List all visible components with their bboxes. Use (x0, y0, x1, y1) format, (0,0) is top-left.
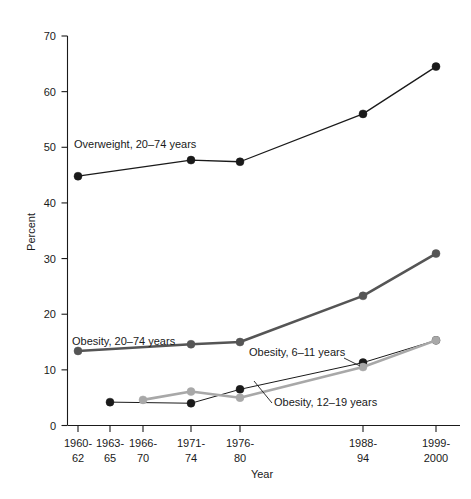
y-tick-label: 10 (44, 364, 56, 376)
data-point (359, 363, 367, 371)
y-tick-label: 0 (50, 420, 56, 432)
data-point (187, 388, 195, 396)
x-tick-label: 1976- (226, 437, 254, 449)
x-axis-ticks: 1960-621963-651966-701971-741976-801988-… (64, 426, 450, 465)
series-annotation-2: Obesity, 6–11 years (249, 346, 346, 358)
y-tick-label: 50 (44, 141, 56, 153)
series-annotation-0: Overweight, 20–74 years (74, 138, 197, 150)
x-tick-label: 2000 (424, 452, 448, 464)
y-tick-label: 20 (44, 308, 56, 320)
series-0 (74, 63, 440, 181)
x-tick-label: 1966- (129, 437, 157, 449)
data-point (187, 340, 195, 348)
x-tick-label: 65 (104, 452, 116, 464)
series-annotations: Overweight, 20–74 yearsObesity, 20–74 ye… (72, 138, 378, 408)
y-axis-ticks: 010203040506070 (44, 30, 68, 432)
x-axis-title: Year (251, 468, 274, 480)
y-tick-label: 40 (44, 197, 56, 209)
x-tick-label: 94 (357, 452, 369, 464)
x-tick-label: 1999- (422, 437, 450, 449)
x-tick-label: 1960- (64, 437, 92, 449)
data-point (432, 63, 440, 71)
data-point (106, 398, 114, 406)
x-tick-label: 74 (185, 452, 197, 464)
obesity-trend-line-chart: 010203040506070 1960-621963-651966-70197… (0, 0, 471, 499)
data-point (187, 399, 195, 407)
data-point (236, 158, 244, 166)
data-point (432, 336, 440, 344)
data-point (74, 172, 82, 180)
data-point (359, 110, 367, 118)
data-point (74, 347, 82, 355)
data-point (187, 156, 195, 164)
y-tick-label: 30 (44, 253, 56, 265)
data-point (432, 250, 440, 258)
data-point (139, 396, 147, 404)
data-point (359, 292, 367, 300)
x-tick-label: 62 (72, 452, 84, 464)
x-tick-label: 1963- (96, 437, 124, 449)
x-tick-label: 1971- (177, 437, 205, 449)
y-tick-label: 60 (44, 86, 56, 98)
chart-figure: 010203040506070 1960-621963-651966-70197… (0, 0, 471, 499)
data-point (236, 385, 244, 393)
x-tick-label: 80 (234, 452, 246, 464)
series-annotation-3: Obesity, 12–19 years (274, 396, 378, 408)
y-axis-title: Percent (25, 213, 37, 251)
x-tick-label: 70 (137, 452, 149, 464)
data-point (236, 394, 244, 402)
x-tick-label: 1988- (349, 437, 377, 449)
data-point (236, 338, 244, 346)
series-line (78, 67, 436, 177)
series-annotation-1: Obesity, 20–74 years (72, 335, 176, 347)
y-tick-label: 70 (44, 30, 56, 42)
